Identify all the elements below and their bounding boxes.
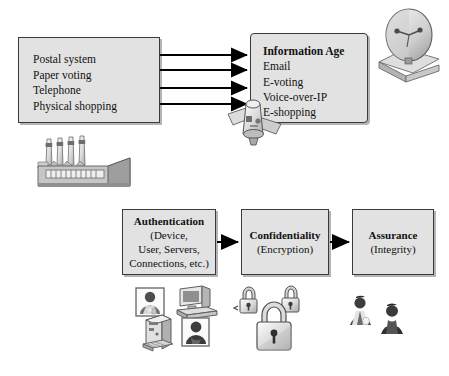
diagram-canvas: Postal system Paper voting Telephone Phy… <box>0 0 449 376</box>
small-padlock-icon <box>282 286 299 312</box>
server-tower-icon <box>143 315 173 351</box>
stage-authentication-text: Authentication (Device, User, Servers, C… <box>123 210 215 274</box>
stage-box-authentication: Authentication (Device, User, Servers, C… <box>122 209 216 275</box>
stage-authentication-sub-3: Connections, etc.) <box>129 256 209 270</box>
information-age-item-voip: Voice-over-IP <box>263 90 344 105</box>
stage-authentication-sub-2: User, Servers, <box>138 242 200 256</box>
stage-confidentiality-text: Confidentiality (Encryption) <box>242 210 328 274</box>
transition-arrow-group <box>160 55 247 104</box>
traditional-systems-list: Postal system Paper voting Telephone Phy… <box>33 52 117 114</box>
information-age-item-eshopping: E-shopping <box>263 105 344 120</box>
information-age-heading: Information Age <box>263 44 344 59</box>
stage-box-assurance: Assurance (Integrity) <box>352 209 434 275</box>
person-bust-icon <box>350 296 371 325</box>
information-age-item-email: Email <box>263 59 344 74</box>
traditional-item-telephone: Telephone <box>33 83 117 99</box>
information-age-list: Information Age Email E-voting Voice-ove… <box>263 44 344 120</box>
factory-icon <box>38 136 130 187</box>
user-badge-icon <box>136 288 164 316</box>
information-age-box: Information Age Email E-voting Voice-ove… <box>250 33 368 123</box>
traditional-systems-box: Postal system Paper voting Telephone Phy… <box>18 37 160 123</box>
desktop-computer-icon <box>177 286 217 319</box>
user-silhouette-icon <box>182 318 209 346</box>
stage-assurance-title: Assurance <box>369 228 418 242</box>
large-padlock-icon <box>257 302 291 350</box>
stage-assurance-sub-1: (Integrity) <box>370 242 415 256</box>
traditional-item-postal: Postal system <box>33 52 117 68</box>
stage-authentication-sub-1: (Device, <box>150 228 188 242</box>
small-padlock-icon <box>234 287 257 313</box>
stage-confidentiality-title: Confidentiality <box>250 228 321 242</box>
information-age-item-evoting: E-voting <box>263 75 344 90</box>
traditional-item-paper-voting: Paper voting <box>33 68 117 84</box>
stage-box-confidentiality: Confidentiality (Encryption) <box>241 209 329 275</box>
stage-confidentiality-sub-1: (Encryption) <box>257 242 313 256</box>
stage-assurance-text: Assurance (Integrity) <box>353 210 433 274</box>
traditional-item-physical-shopping: Physical shopping <box>33 99 117 115</box>
stage-authentication-title: Authentication <box>134 214 204 228</box>
satellite-dish-icon <box>379 9 439 82</box>
person-bust-icon <box>381 303 403 334</box>
